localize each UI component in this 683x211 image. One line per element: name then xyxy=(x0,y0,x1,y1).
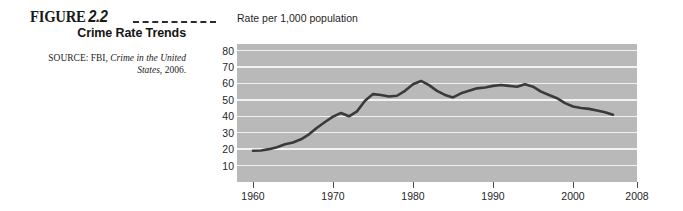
x-tick-mark xyxy=(253,182,254,188)
y-tick-label: 30 xyxy=(222,127,234,139)
x-tick-label: 1960 xyxy=(241,190,264,202)
source-prefix: SOURCE: FBI, xyxy=(48,53,108,63)
crime-rate-line-chart: Rate per 1,000 population 10203040506070… xyxy=(218,0,683,211)
x-tick-mark xyxy=(493,182,494,188)
figure-title: Crime Rate Trends xyxy=(77,26,186,40)
source-year: 2006. xyxy=(165,65,186,75)
figure-dashed-rule xyxy=(133,21,216,23)
y-axis-tick-labels: 1020304050607080 xyxy=(218,44,237,182)
x-tick-label: 2008 xyxy=(625,190,648,202)
y-axis-title: Rate per 1,000 population xyxy=(237,12,358,24)
y-tick-label: 50 xyxy=(222,94,234,106)
x-tick-label: 2000 xyxy=(561,190,584,202)
figure-source: SOURCE: FBI, Crime in the United States,… xyxy=(26,52,186,76)
crime-rate-polyline xyxy=(253,81,613,151)
x-tick-label: 1970 xyxy=(321,190,344,202)
figure-label: FIGURE2.2 xyxy=(30,8,107,26)
data-line-series xyxy=(237,44,637,182)
x-tick-mark xyxy=(637,182,638,188)
figure-caption-block: FIGURE2.2 Crime Rate Trends SOURCE: FBI,… xyxy=(0,0,218,211)
x-tick-mark xyxy=(333,182,334,188)
y-tick-label: 10 xyxy=(222,160,234,172)
y-tick-label: 70 xyxy=(222,61,234,73)
x-tick-mark xyxy=(413,182,414,188)
figure-label-text: FIGURE xyxy=(30,8,86,25)
x-tick-mark xyxy=(573,182,574,188)
x-axis: 196019701980199020002008 xyxy=(237,182,637,211)
y-tick-label: 80 xyxy=(222,45,234,57)
plot-area xyxy=(237,44,637,182)
x-tick-label: 1990 xyxy=(481,190,504,202)
y-tick-label: 40 xyxy=(222,110,234,122)
y-tick-label: 20 xyxy=(222,143,234,155)
y-tick-label: 60 xyxy=(222,77,234,89)
x-tick-label: 1980 xyxy=(401,190,424,202)
figure-number: 2.2 xyxy=(88,8,107,25)
